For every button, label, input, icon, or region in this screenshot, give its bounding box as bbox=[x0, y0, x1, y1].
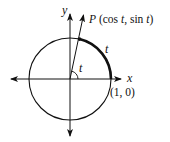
point-P-label: P (cos t, sin t) bbox=[88, 13, 153, 26]
point-P-letter: P bbox=[88, 13, 96, 25]
point-one-zero-label: (1, 0) bbox=[110, 86, 135, 99]
arc-label: t bbox=[105, 42, 109, 56]
y-axis-label: y bbox=[61, 3, 68, 17]
point-P bbox=[78, 37, 82, 41]
unit-circle-diagram: y P (cos t, sin t) t t x (1, 0) bbox=[0, 0, 170, 142]
angle-label: t bbox=[79, 61, 83, 75]
point-P-open: (cos bbox=[99, 13, 121, 26]
point-P-mid: , sin bbox=[124, 13, 146, 26]
angle-arc bbox=[72, 71, 78, 79]
point-P-close: ) bbox=[149, 13, 153, 26]
x-axis-label: x bbox=[126, 71, 133, 85]
